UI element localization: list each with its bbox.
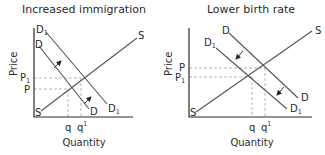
supply-label-top: S [138, 30, 144, 41]
quantity-label-right: q1 [77, 120, 88, 133]
demand-new-label-top: D1 [36, 24, 48, 37]
quantity-label-left: q [65, 122, 71, 133]
quantity-label-right: q1 [261, 120, 272, 133]
supply-demand-diagrams: Increased immigration Price Quantity D1 … [0, 0, 325, 155]
demand-new-label-bottom: D1 [290, 103, 302, 116]
demand-original-label-top: D [35, 39, 43, 50]
quantity-label-left: q [249, 122, 255, 133]
panel-increased-immigration: Increased immigration Price Quantity D1 … [8, 3, 146, 148]
shift-arrow-icon [277, 87, 284, 95]
price-label-lower: P1 [175, 72, 185, 85]
price-label-lower: P [24, 84, 30, 95]
demand-curve-new [216, 48, 287, 109]
panel-lower-birth-rate: Lower birth rate Price Quantity D D1 D D… [163, 3, 321, 148]
demand-new-label-bottom: D1 [108, 103, 120, 116]
demand-new-label-top: D1 [204, 37, 216, 50]
demand-curve-original [39, 46, 89, 109]
y-axis-label: Price [8, 52, 19, 76]
supply-label-top: S [315, 25, 321, 36]
shift-arrow-icon [54, 61, 61, 68]
demand-original-label-bottom: D [301, 92, 309, 103]
panel-title: Lower birth rate [207, 3, 295, 16]
axes [34, 28, 133, 117]
y-axis-label: Price [163, 52, 174, 76]
demand-original-label-top: D [222, 25, 230, 36]
shift-arrow-icon [84, 97, 91, 104]
panel-title: Increased immigration [22, 3, 146, 16]
supply-label-bottom: S [35, 107, 41, 118]
supply-label-bottom: S [190, 107, 196, 118]
demand-original-label-bottom: D [90, 106, 98, 117]
supply-curve [41, 38, 137, 111]
shift-arrow-icon [236, 51, 243, 59]
x-axis-label: Quantity [62, 137, 105, 148]
x-axis-label: Quantity [230, 137, 273, 148]
